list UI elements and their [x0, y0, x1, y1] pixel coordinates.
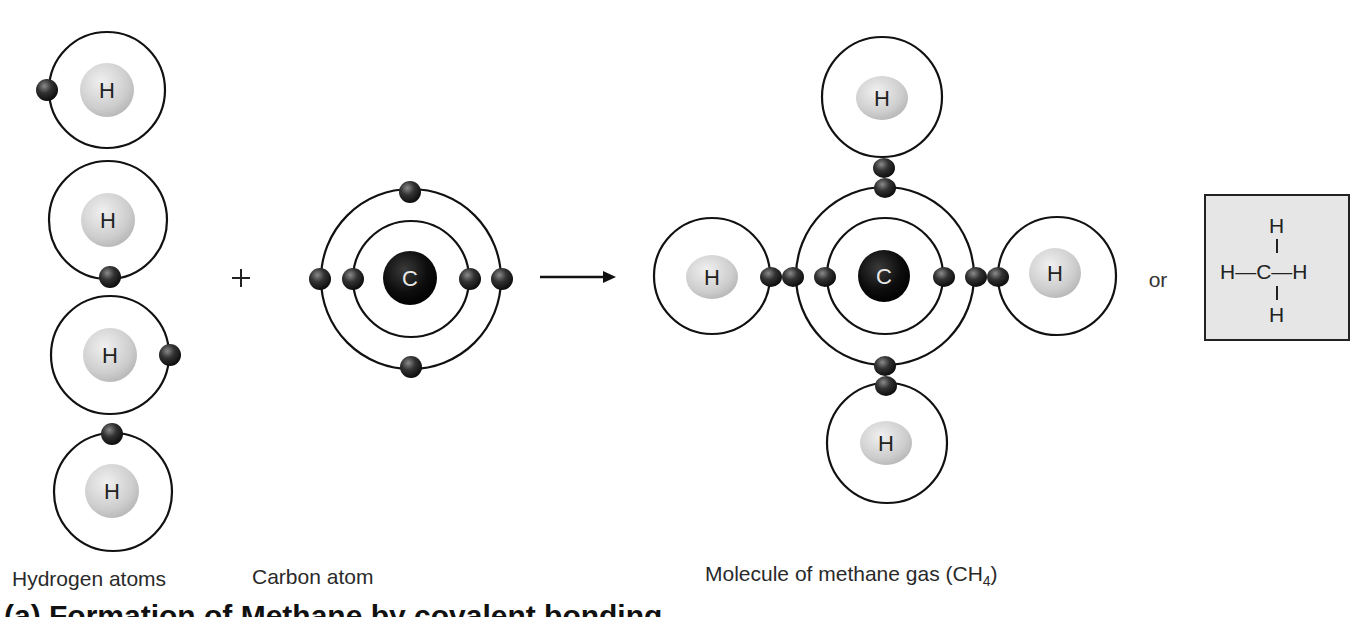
carbon-symbol: C — [402, 266, 418, 291]
electron — [159, 344, 181, 366]
formula-bottom-h: H — [1269, 303, 1284, 327]
methane-formation-diagram: H H H H C — [0, 0, 1369, 617]
methane-subscript: 4 — [983, 573, 991, 589]
electron — [933, 267, 955, 287]
methane-molecule: H H H H C — [654, 37, 1116, 503]
hydrogen-atom-2: H — [49, 161, 167, 288]
plus-sign — [232, 269, 250, 287]
carbon-atom-caption: Carbon atom — [252, 565, 373, 589]
shared-electron — [987, 267, 1009, 287]
shared-electron — [965, 267, 987, 287]
formula-middle-row: H—C—H — [1220, 260, 1308, 284]
electron — [400, 356, 422, 378]
methane-caption-text: Molecule of methane gas (CH — [705, 562, 983, 585]
shared-electron — [874, 178, 896, 198]
shared-electron — [873, 158, 895, 178]
electron — [99, 266, 121, 288]
reaction-arrow-icon — [540, 271, 616, 283]
electron — [309, 268, 331, 290]
hydrogen-symbol: H — [1047, 261, 1063, 286]
formula-bond-top — [1276, 239, 1278, 253]
electron — [101, 423, 123, 445]
structural-formula-box: H H—C—H H — [1204, 194, 1350, 341]
shared-electron — [875, 376, 897, 396]
carbon-symbol: C — [876, 264, 892, 289]
electron — [36, 79, 58, 101]
formula-bond-bottom — [1276, 286, 1278, 300]
hydrogen-atom-3: H — [51, 296, 181, 414]
electron — [491, 268, 513, 290]
electron — [399, 181, 421, 203]
hydrogen-atom-1: H — [36, 32, 165, 148]
hydrogen-symbol: H — [104, 479, 120, 504]
hydrogen-atoms-caption: Hydrogen atoms — [12, 567, 166, 591]
carbon-atom: C — [309, 181, 513, 378]
shared-electron — [760, 267, 782, 287]
or-label: or — [1149, 268, 1168, 291]
electron — [814, 267, 836, 287]
methane-caption-close: ) — [991, 562, 998, 585]
electron — [459, 268, 481, 290]
hydrogen-symbol: H — [100, 208, 116, 233]
hydrogen-symbol: H — [99, 78, 115, 103]
hydrogen-atom-4: H — [54, 423, 172, 551]
shared-electron — [782, 267, 804, 287]
hydrogen-symbol: H — [704, 265, 720, 290]
formula-top-h: H — [1269, 214, 1284, 238]
hydrogen-symbol: H — [102, 343, 118, 368]
electron — [342, 268, 364, 290]
figure-caption-cutoff: (a) Formation of Methane by covalent bon… — [4, 598, 662, 617]
hydrogen-symbol: H — [878, 431, 894, 456]
hydrogen-symbol: H — [874, 86, 890, 111]
shared-electron — [874, 356, 896, 376]
methane-caption: Molecule of methane gas (CH4) — [705, 562, 998, 589]
